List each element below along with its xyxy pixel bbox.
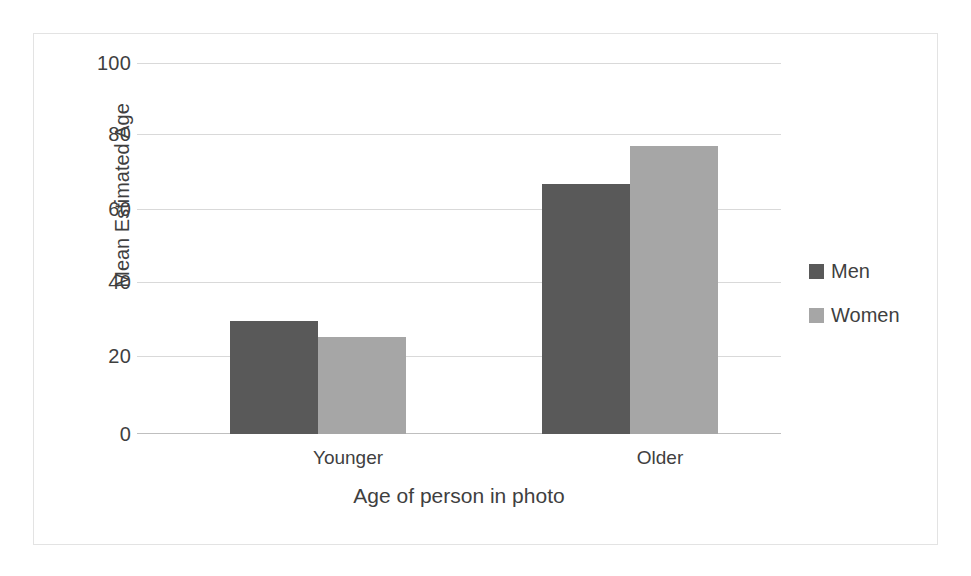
legend-swatch-women-icon: [809, 308, 824, 323]
legend-item-women[interactable]: Women: [809, 293, 919, 337]
gridline-80: [137, 134, 781, 135]
legend-swatch-men-icon: [809, 264, 824, 279]
legend: Men Women: [809, 249, 919, 337]
y-tick-label-0: 0: [61, 424, 131, 444]
y-axis-tick-labels: 100 80 60 40 20 0: [57, 63, 131, 434]
x-axis-title: Age of person in photo: [137, 484, 781, 508]
y-tick-label-40: 40: [61, 272, 131, 292]
x-tick-label-younger: Younger: [248, 447, 448, 469]
legend-item-men[interactable]: Men: [809, 249, 919, 293]
bar-men-younger[interactable]: [230, 321, 318, 434]
legend-label-men: Men: [831, 260, 870, 283]
y-tick-label-80: 80: [61, 124, 131, 144]
gridline-100: [137, 63, 781, 64]
bar-women-older[interactable]: [630, 146, 718, 434]
x-tick-label-older: Older: [560, 447, 760, 469]
legend-label-women: Women: [831, 304, 900, 327]
y-tick-label-20: 20: [61, 346, 131, 366]
plot-area: [137, 63, 781, 434]
y-tick-label-60: 60: [61, 199, 131, 219]
chart-screenshot: Mean Estimated Age 100 80 60 40 20 0: [0, 0, 971, 576]
bar-men-older[interactable]: [542, 184, 630, 434]
y-tick-label-100: 100: [61, 53, 131, 73]
figure-border: Mean Estimated Age 100 80 60 40 20 0: [33, 33, 938, 545]
bar-women-younger[interactable]: [318, 337, 406, 434]
